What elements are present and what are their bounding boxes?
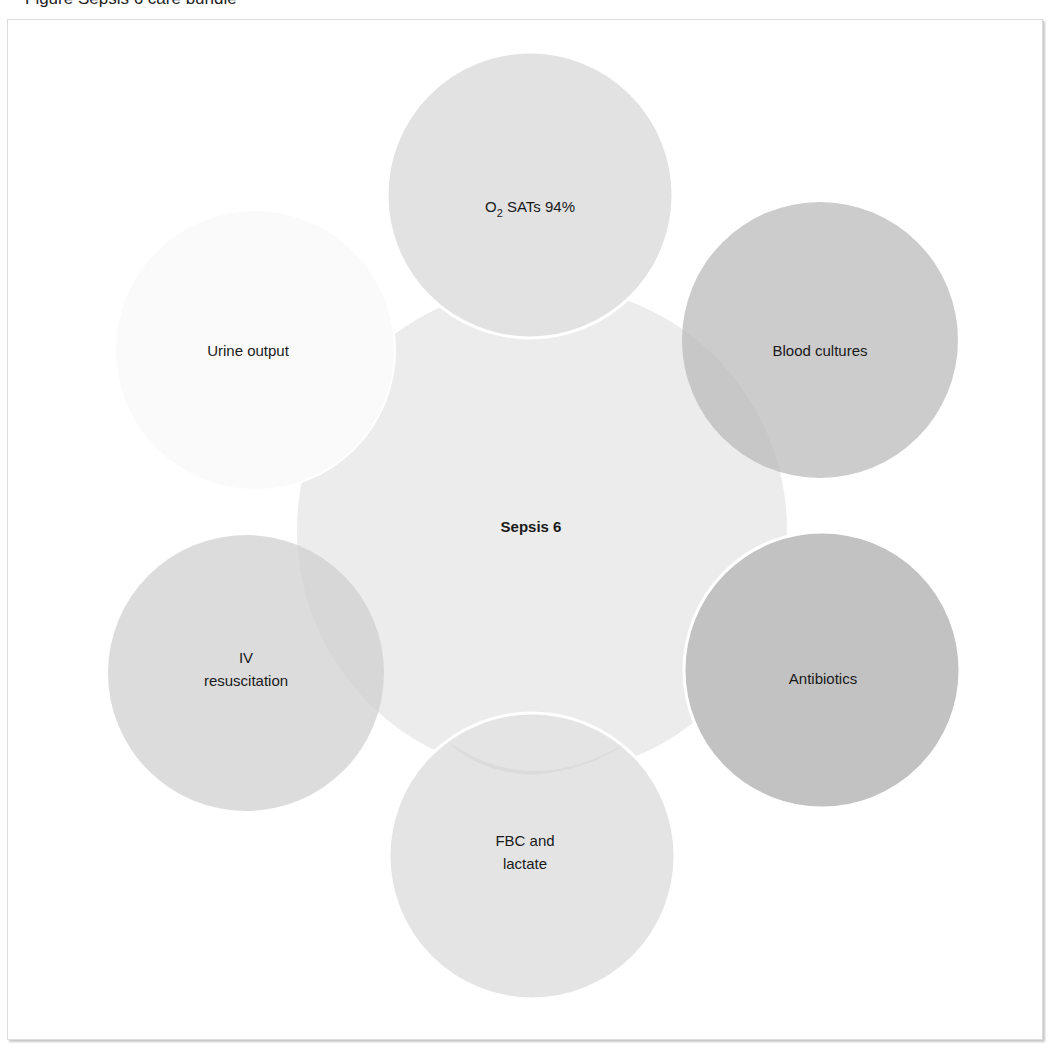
node-blood-cultures-circle: [682, 202, 958, 478]
node-antibiotics-label: Antibiotics: [789, 670, 857, 687]
node-urine-output-label: Urine output: [207, 342, 290, 359]
node-o2-sats-circle: [387, 52, 673, 338]
node-fbc-lactate-label-line1: FBC and: [495, 832, 554, 849]
center-label: Sepsis 6: [501, 518, 562, 535]
node-iv-resuscitation-label-line2: resuscitation: [204, 672, 288, 689]
node-iv-resuscitation-label-line1: IV: [239, 649, 253, 666]
sepsis-six-diagram: O2 SATs 94% Blood cultures Antibiotics F…: [0, 0, 1057, 1048]
node-blood-cultures-label: Blood cultures: [772, 342, 867, 359]
node-fbc-lactate-label-line2: lactate: [503, 855, 547, 872]
